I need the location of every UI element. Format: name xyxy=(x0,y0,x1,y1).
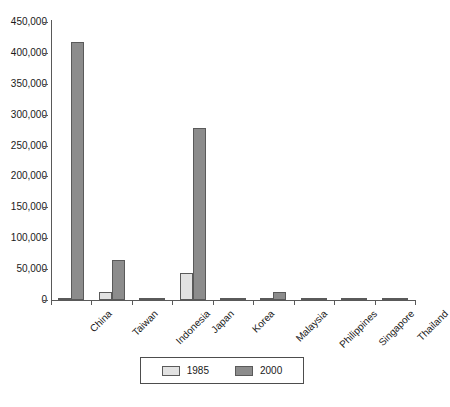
x-axis-tick xyxy=(91,300,92,305)
bar-korea-2000 xyxy=(233,298,246,300)
y-axis-tick xyxy=(43,176,48,177)
bar-malaysia-2000 xyxy=(273,292,286,300)
bar-taiwan-1985 xyxy=(99,292,112,300)
bar-group xyxy=(91,22,131,300)
bar-singapore-1985 xyxy=(341,298,354,300)
y-axis-tick xyxy=(43,53,48,54)
dark-gray-swatch xyxy=(235,366,253,376)
x-axis-label-japan: Japan xyxy=(209,308,236,335)
legend-entry-1985: 1985 xyxy=(162,366,209,376)
bar-japan-1985 xyxy=(180,273,193,300)
x-axis-label-singapore: Singapore xyxy=(377,308,417,348)
y-axis-tick xyxy=(43,238,48,239)
x-axis-tick xyxy=(213,300,214,305)
x-axis-tick xyxy=(415,300,416,305)
bar-malaysia-1985 xyxy=(260,298,273,300)
bar-group xyxy=(375,22,415,300)
bar-thailand-1985 xyxy=(382,298,395,300)
x-axis-label-korea: Korea xyxy=(250,308,277,335)
x-axis-line xyxy=(51,300,415,301)
bar-group xyxy=(213,22,253,300)
y-axis-tick xyxy=(43,115,48,116)
y-axis-tick xyxy=(43,300,48,301)
x-axis-tick xyxy=(172,300,173,305)
bar-china-1985 xyxy=(58,298,71,300)
y-axis-tick-label: 350,000 xyxy=(11,79,47,89)
y-axis-tick-label: 200,000 xyxy=(11,171,47,181)
light-gray-swatch xyxy=(162,366,180,376)
y-axis-tick xyxy=(43,22,48,23)
x-axis-tick xyxy=(132,300,133,305)
legend-label: 1985 xyxy=(187,366,209,376)
y-axis-tick-label: 100,000 xyxy=(11,233,47,243)
bar-group xyxy=(51,22,91,300)
bar-indonesia-2000 xyxy=(152,298,165,300)
x-axis-label-indonesia: Indonesia xyxy=(174,308,212,346)
bar-indonesia-1985 xyxy=(139,298,152,300)
y-axis-tick xyxy=(43,207,48,208)
y-axis-tick xyxy=(43,269,48,270)
plot-area xyxy=(51,22,415,300)
y-axis-tick-label: 250,000 xyxy=(11,141,47,151)
x-axis-label-taiwan: Taiwan xyxy=(130,308,160,338)
chart-legend: 19852000 xyxy=(140,357,304,384)
bar-korea-1985 xyxy=(220,298,233,300)
y-axis-tick-label: 400,000 xyxy=(11,48,47,58)
x-axis-tick xyxy=(334,300,335,305)
legend-entry-2000: 2000 xyxy=(235,366,282,376)
x-axis-label-philippines: Philippines xyxy=(337,308,379,350)
bar-thailand-2000 xyxy=(395,298,408,300)
y-axis-tick-label: 450,000 xyxy=(11,17,47,27)
bar-japan-2000 xyxy=(193,128,206,300)
x-axis-tick xyxy=(253,300,254,305)
y-axis-tick-label: 300,000 xyxy=(11,110,47,120)
bar-philippines-1985 xyxy=(301,298,314,300)
y-axis-tick-label: 150,000 xyxy=(11,202,47,212)
bar-group xyxy=(253,22,293,300)
bar-group xyxy=(172,22,212,300)
x-axis-label-malaysia: Malaysia xyxy=(294,308,330,344)
x-axis-tick xyxy=(51,300,52,305)
x-axis-label-thailand: Thailand xyxy=(415,308,450,343)
bar-singapore-2000 xyxy=(354,298,367,300)
bar-group xyxy=(294,22,334,300)
y-axis-tick xyxy=(43,84,48,85)
bar-philippines-2000 xyxy=(314,298,327,300)
bar-china-2000 xyxy=(71,42,84,300)
legend-label: 2000 xyxy=(260,366,282,376)
bar-group xyxy=(132,22,172,300)
bar-group xyxy=(334,22,374,300)
y-axis-tick xyxy=(43,146,48,147)
y-axis-labels: 450,000400,000350,000300,000250,000200,0… xyxy=(0,22,47,300)
x-axis-label-china: China xyxy=(88,308,114,334)
x-axis-tick xyxy=(375,300,376,305)
x-axis-tick xyxy=(294,300,295,305)
bar-taiwan-2000 xyxy=(112,260,125,300)
